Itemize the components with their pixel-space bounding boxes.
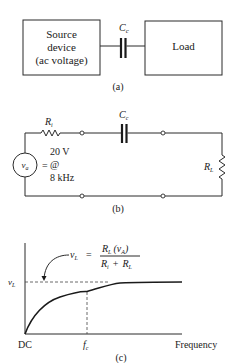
source-value-voltage: 20 V — [50, 146, 70, 157]
equation-lhs: vL — [70, 249, 78, 261]
source-value-frequency: 8 kHz — [50, 172, 75, 183]
equation-denominator: Ri+RL — [100, 258, 133, 270]
load-box-label: Load — [172, 40, 195, 52]
panel-c-frequency-response: vL = RL(vA) Ri+RL vL DC fc Frequency (c) — [8, 243, 217, 363]
source-box-line1: Source — [46, 28, 77, 40]
response-curve — [25, 282, 182, 334]
panel-a-block-diagram: Source device (ac voltage) Cc Load (a) — [23, 20, 222, 93]
terminal-bottom-right — [161, 194, 165, 198]
x-label-dc: DC — [18, 339, 32, 350]
x-label-fc: fc — [83, 339, 89, 351]
diagram-canvas: Source device (ac voltage) Cc Load (a) v… — [0, 0, 236, 363]
source-equals: = — [42, 160, 48, 171]
source-symbol: va — [22, 160, 29, 171]
source-box-line2: device — [47, 41, 76, 53]
terminal-bottom-left — [80, 194, 84, 198]
x-label-frequency: Frequency — [175, 339, 217, 350]
panel-b-circuit: va = 20 V @ 8 kHz Ri Cc RL (b) — [13, 109, 225, 215]
source-value-at: @ — [50, 159, 59, 170]
caption-b: (b) — [112, 203, 124, 215]
equation-equals: = — [86, 249, 92, 260]
annotation-arrow — [44, 255, 69, 279]
arrowhead-icon — [42, 276, 47, 281]
internal-resistor-icon — [41, 130, 60, 136]
caption-a: (a) — [112, 81, 123, 93]
internal-resistor-label: Ri — [44, 116, 53, 128]
source-box-line3: (ac voltage) — [35, 54, 88, 67]
terminal-top-left — [80, 131, 84, 135]
load-resistor-label: RL — [203, 161, 214, 173]
coupling-capacitor-icon — [121, 38, 126, 58]
capacitor-label-b: Cc — [119, 109, 129, 121]
load-resistor-icon — [219, 155, 225, 179]
capacitor-label-a: Cc — [119, 22, 130, 35]
y-label-vl: vL — [8, 277, 16, 288]
caption-c: (c) — [115, 352, 126, 363]
terminal-top-right — [161, 131, 165, 135]
coupling-capacitor-b-icon — [122, 124, 127, 143]
equation-numerator: RL(vA) — [101, 243, 129, 255]
